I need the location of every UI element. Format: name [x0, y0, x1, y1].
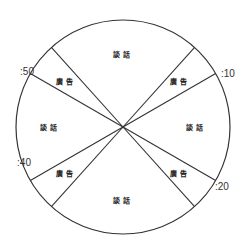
divider-line — [51, 47, 123, 127]
talk-segment-label: 談話 — [113, 50, 133, 59]
ad-segment-label: 廣告 — [169, 169, 190, 178]
divider-line — [51, 127, 123, 207]
ad-segment-label: 廣告 — [169, 77, 190, 86]
divider-line — [123, 47, 195, 127]
minute-label: :40 — [17, 157, 31, 168]
minute-label: :50 — [20, 66, 34, 77]
ad-segment-label: 廣告 — [55, 77, 76, 86]
divider-line — [30, 127, 123, 181]
divider-line — [123, 127, 195, 207]
divider-line — [30, 74, 123, 128]
clock-diagram: 談話廣告談話廣告談話廣告談話廣告 :10:20:40:50 — [0, 0, 246, 252]
talk-segment-label: 談話 — [113, 196, 133, 205]
talk-segment-label: 談話 — [40, 123, 60, 132]
minute-label: :10 — [221, 68, 235, 79]
ad-segment-label: 廣告 — [55, 169, 76, 178]
minute-label: :20 — [215, 181, 229, 192]
talk-segment-label: 談話 — [186, 123, 206, 132]
